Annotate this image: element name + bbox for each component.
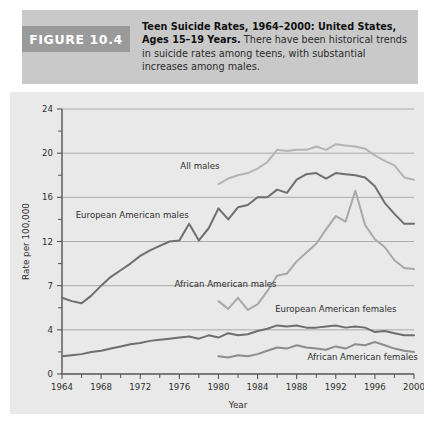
y-tick-label: 16	[42, 192, 53, 202]
line-chart: 04712162024 1964196819721976198019841988…	[10, 92, 424, 414]
x-tick-label: 1976	[168, 382, 190, 392]
x-tick-label: 2000	[403, 382, 424, 392]
y-tick-label: 24	[42, 104, 53, 114]
y-tick-label: 12	[42, 237, 53, 247]
y-tick-label: 20	[42, 148, 53, 158]
figure-caption-block: FIGURE 10.4 Teen Suicide Rates, 1964–200…	[22, 10, 418, 84]
figure-number-badge: FIGURE 10.4	[22, 26, 130, 52]
x-axis-tick-labels: 1964196819721976198019841988199219962000	[51, 382, 424, 392]
series-line-african-american-males	[218, 191, 414, 310]
y-tick-label: 4	[48, 325, 53, 335]
y-tick-label: 0	[48, 369, 53, 379]
x-tick-label: 1972	[129, 382, 151, 392]
figure-caption-text: Teen Suicide Rates, 1964–2000: United St…	[130, 10, 418, 84]
x-tick-label: 1980	[208, 382, 230, 392]
x-axis-title: Year	[228, 400, 248, 410]
series-label-european-american-females: European American females	[275, 304, 397, 314]
series-label-european-american-males: European American males	[76, 210, 190, 220]
x-tick-label: 1996	[364, 382, 386, 392]
x-tick-label: 1992	[325, 382, 347, 392]
series-label-african-american-females: African American females	[307, 352, 418, 362]
x-tick-label: 1968	[90, 382, 112, 392]
series-inline-labels: All malesEuropean American malesAfrican …	[76, 161, 419, 362]
x-tick-label: 1988	[286, 382, 308, 392]
x-tick-label: 1984	[247, 382, 269, 392]
series-label-all-males: All males	[180, 161, 220, 171]
y-tick-label: 7	[48, 281, 53, 291]
axis-ticks	[57, 109, 414, 379]
y-axis-tick-labels: 04712162024	[42, 104, 53, 379]
series-label-african-american-males: African American males	[174, 279, 277, 289]
y-axis-title: Rate per 100,000	[21, 203, 31, 280]
chart-panel: 04712162024 1964196819721976198019841988…	[10, 92, 424, 414]
series-paths	[62, 144, 414, 357]
x-tick-label: 1964	[51, 382, 73, 392]
series-line-all-males	[218, 144, 414, 184]
